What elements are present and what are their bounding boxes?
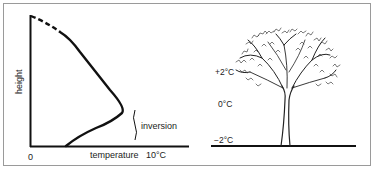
inversion-label: inversion xyxy=(141,122,177,131)
x-origin-label: 0 xyxy=(28,153,33,162)
inversion-bracket xyxy=(134,110,137,140)
temp-label-plus2: +2°C xyxy=(215,68,234,77)
x-max-label: 10°C xyxy=(146,151,166,160)
y-axis-label: height xyxy=(15,69,24,94)
temperature-curve xyxy=(60,32,123,146)
tree-icon xyxy=(236,28,340,146)
temp-label-0: 0°C xyxy=(218,100,232,109)
x-axis-label: temperature xyxy=(90,151,139,160)
temp-label-minus2: −2°C xyxy=(214,136,233,145)
temperature-curve-dashed xyxy=(31,16,60,32)
diagram-canvas xyxy=(0,0,376,172)
